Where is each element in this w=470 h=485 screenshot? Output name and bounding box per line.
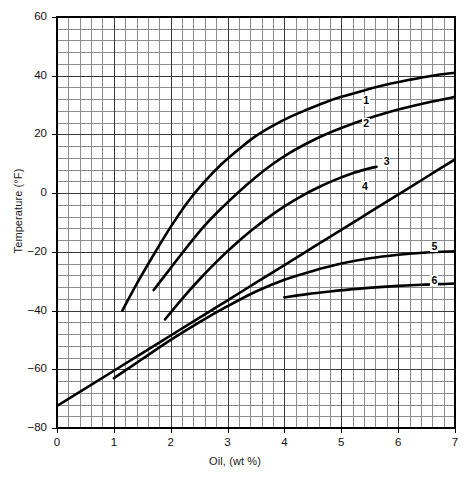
- x-tick-label: 1: [102, 436, 126, 448]
- curve-label-5: 5: [430, 241, 438, 252]
- x-tick-label: 7: [443, 436, 467, 448]
- curve-label-4: 4: [361, 181, 369, 192]
- x-tick-label: 0: [45, 436, 69, 448]
- curve-label-6: 6: [430, 275, 438, 286]
- curve-label-3: 3: [383, 156, 391, 167]
- y-axis-title: Temperature (°F): [12, 141, 24, 281]
- curve-label-1: 1: [362, 95, 370, 106]
- chart-plot-area: [0, 0, 470, 485]
- y-tick-label: −40: [13, 304, 47, 316]
- x-tick-label: 4: [272, 436, 296, 448]
- chart-container: 6040200−20−40−60−80 01234567 123456 Temp…: [0, 0, 470, 485]
- y-tick-label: −60: [13, 362, 47, 374]
- x-tick-label: 2: [159, 436, 183, 448]
- x-axis-title: Oil, (wt %): [0, 455, 470, 467]
- y-tick-label: 20: [13, 127, 47, 139]
- x-tick-label: 5: [329, 436, 353, 448]
- x-tick-label: 6: [386, 436, 410, 448]
- y-tick-label: 40: [13, 69, 47, 81]
- x-tick-label: 3: [216, 436, 240, 448]
- y-tick-label: −80: [13, 421, 47, 433]
- chart-background: [0, 0, 470, 485]
- y-tick-label: 60: [13, 10, 47, 22]
- curve-label-2: 2: [362, 118, 370, 129]
